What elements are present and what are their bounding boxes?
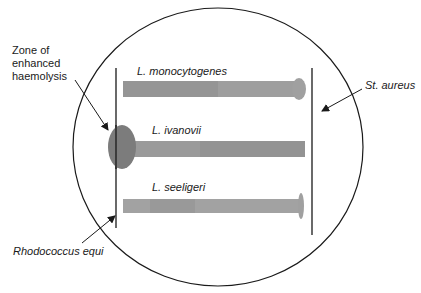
zone-label-line-2: enhanced	[12, 57, 67, 70]
st-aureus-label: St. aureus	[365, 79, 415, 92]
zone-label-line-3: haemolysis	[12, 70, 67, 83]
enhanced-haemolysis-zone	[298, 193, 304, 219]
l-ivanovii-streak	[108, 125, 305, 169]
st-aureus-arrow	[322, 89, 362, 111]
enhanced-haemolysis-zone	[108, 125, 136, 169]
zone-label-line-1: Zone of	[12, 44, 67, 57]
rhodococcus-equi-label: Rhodococcus equi	[13, 245, 104, 258]
l-monocytogenes-streak	[123, 78, 306, 100]
l-seeligeri-label: L. seeligeri	[152, 181, 205, 194]
enhanced-haemolysis-zone	[292, 78, 306, 100]
zone-label: Zone of enhanced haemolysis	[12, 44, 67, 83]
l-ivanovii-label: L. ivanovii	[152, 124, 201, 137]
l-seeligeri-streak	[123, 193, 304, 219]
l-monocytogenes-label: L. monocytogenes	[137, 65, 227, 78]
